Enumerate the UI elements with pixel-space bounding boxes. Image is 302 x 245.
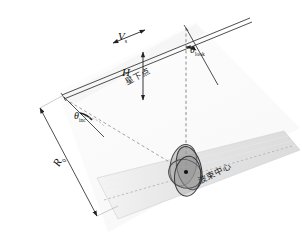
sar-geometry-figure: Vs H 星下点 θlook θinc R0 波束中心 xyxy=(0,0,302,245)
diagram-canvas xyxy=(0,0,302,245)
beam-center-point xyxy=(184,170,188,174)
velocity-arrow xyxy=(113,30,145,43)
